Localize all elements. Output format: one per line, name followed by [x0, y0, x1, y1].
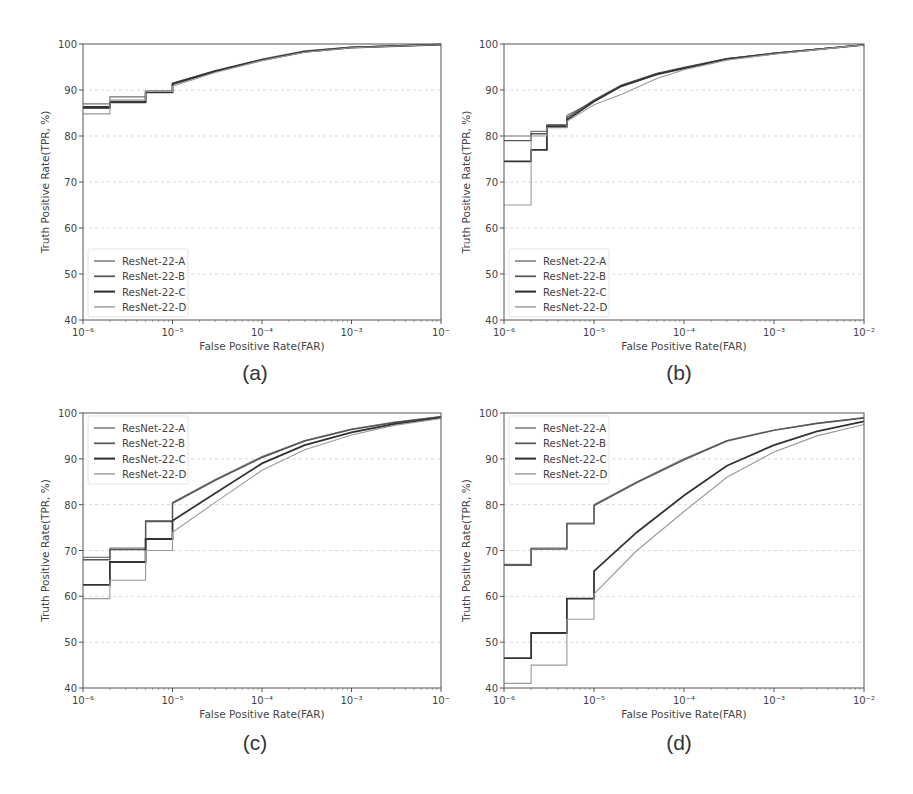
x-axis-label: False Positive Rate(FAR)	[621, 340, 746, 352]
y-tick-label: 40	[485, 315, 498, 326]
chart-panel-d: 40506070809010010⁻⁶10⁻⁵10⁻⁴10⁻³10⁻²False…	[460, 408, 875, 754]
x-axis-label: False Positive Rate(FAR)	[621, 708, 746, 720]
legend: ResNet-22-AResNet-22-BResNet-22-CResNet-…	[509, 249, 609, 317]
y-tick-label: 80	[64, 500, 77, 511]
y-tick-label: 90	[485, 454, 498, 465]
legend-label: ResNet-22-A	[543, 256, 606, 267]
y-tick-label: 60	[485, 591, 498, 602]
x-axis-label: False Positive Rate(FAR)	[199, 708, 324, 720]
legend-label: ResNet-22-D	[543, 302, 607, 313]
legend-label: ResNet-22-D	[122, 302, 186, 313]
x-tick-label: 10⁻⁵	[161, 327, 183, 338]
x-tick-label: 10⁻⁴	[251, 327, 273, 338]
legend-label: ResNet-22-B	[543, 438, 606, 449]
x-tick-label: 10⁻	[432, 695, 450, 706]
y-tick-label: 90	[485, 85, 498, 96]
y-tick-label: 60	[64, 223, 77, 234]
y-tick-label: 70	[64, 546, 77, 557]
y-tick-label: 100	[479, 39, 498, 50]
x-tick-label: 10⁻⁵	[583, 327, 605, 338]
x-tick-label: 10⁻⁶	[493, 695, 515, 706]
legend-label: ResNet-22-A	[543, 423, 606, 434]
legend-label: ResNet-22-C	[543, 287, 607, 298]
x-tick-label: 10⁻²	[853, 327, 875, 338]
y-tick-label: 40	[64, 683, 77, 694]
legend-label: ResNet-22-B	[543, 271, 606, 282]
y-tick-label: 90	[64, 454, 77, 465]
y-tick-label: 70	[485, 177, 498, 188]
y-tick-label: 60	[64, 591, 77, 602]
legend: ResNet-22-AResNet-22-BResNet-22-CResNet-…	[88, 249, 188, 317]
legend-label: ResNet-22-B	[122, 271, 185, 282]
roc-curve-resnet-22-c	[83, 45, 441, 108]
panel-caption: (a)	[242, 361, 268, 384]
y-tick-label: 50	[64, 637, 77, 648]
chart-panel-b: 40506070809010010⁻⁶10⁻⁵10⁻⁴10⁻³10⁻²False…	[460, 39, 875, 384]
y-axis-label: Truth Positive Rate(TPR, %)	[39, 479, 51, 623]
y-tick-label: 100	[479, 408, 498, 419]
roc-curve-resnet-22-c	[504, 45, 864, 161]
x-tick-label: 10⁻³	[763, 695, 785, 706]
chart-panel-a: 40506070809010010⁻⁶10⁻⁵10⁻⁴10⁻³10⁻False …	[39, 39, 450, 384]
x-tick-label: 10⁻³	[763, 327, 785, 338]
x-tick-label: 10⁻⁴	[673, 695, 695, 706]
y-tick-label: 60	[485, 223, 498, 234]
y-tick-label: 90	[64, 85, 77, 96]
y-tick-label: 80	[485, 131, 498, 142]
legend-label: ResNet-22-C	[122, 454, 186, 465]
x-tick-label: 10⁻²	[853, 695, 875, 706]
legend-label: ResNet-22-C	[543, 454, 607, 465]
y-tick-label: 80	[64, 131, 77, 142]
roc-curve-resnet-22-a	[83, 45, 441, 104]
x-tick-label: 10⁻³	[340, 695, 362, 706]
x-tick-label: 10⁻⁴	[673, 327, 695, 338]
panel-caption: (b)	[666, 361, 692, 384]
y-tick-label: 70	[485, 546, 498, 557]
y-tick-label: 80	[485, 500, 498, 511]
figure-svg: 40506070809010010⁻⁶10⁻⁵10⁻⁴10⁻³10⁻False …	[0, 0, 913, 794]
legend-label: ResNet-22-C	[122, 287, 186, 298]
y-axis-label: Truth Positive Rate(TPR, %)	[460, 479, 472, 623]
x-axis-label: False Positive Rate(FAR)	[199, 340, 324, 352]
panel-caption: (c)	[243, 731, 268, 754]
x-tick-label: 10⁻⁶	[493, 327, 515, 338]
y-tick-label: 50	[485, 637, 498, 648]
x-tick-label: 10⁻⁵	[161, 695, 183, 706]
legend: ResNet-22-AResNet-22-BResNet-22-CResNet-…	[88, 416, 188, 484]
x-tick-label: 10⁻	[432, 327, 450, 338]
legend-label: ResNet-22-A	[122, 256, 185, 267]
legend-label: ResNet-22-A	[122, 423, 185, 434]
y-tick-label: 40	[485, 683, 498, 694]
roc-curve-resnet-22-b	[83, 45, 441, 109]
legend-label: ResNet-22-D	[543, 469, 607, 480]
x-tick-label: 10⁻⁶	[72, 327, 94, 338]
x-tick-label: 10⁻⁴	[251, 695, 273, 706]
legend-label: ResNet-22-B	[122, 438, 185, 449]
x-tick-label: 10⁻⁵	[583, 695, 605, 706]
y-axis-label: Truth Positive Rate(TPR, %)	[39, 111, 51, 255]
y-tick-label: 100	[58, 408, 77, 419]
panel-caption: (d)	[666, 731, 692, 754]
chart-panel-c: 40506070809010010⁻⁶10⁻⁵10⁻⁴10⁻³10⁻False …	[39, 408, 450, 754]
legend-label: ResNet-22-D	[122, 469, 186, 480]
y-tick-label: 40	[64, 315, 77, 326]
y-tick-label: 100	[58, 39, 77, 50]
y-axis-label: Truth Positive Rate(TPR, %)	[460, 111, 472, 255]
roc-curve-resnet-22-d	[83, 45, 441, 114]
x-tick-label: 10⁻⁶	[72, 695, 94, 706]
y-tick-label: 50	[64, 269, 77, 280]
y-tick-label: 70	[64, 177, 77, 188]
y-tick-label: 50	[485, 269, 498, 280]
legend: ResNet-22-AResNet-22-BResNet-22-CResNet-…	[509, 416, 609, 484]
x-tick-label: 10⁻³	[340, 327, 362, 338]
